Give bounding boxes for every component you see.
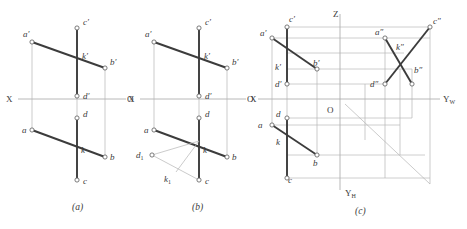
- panel-a-label-a-prime: a′: [23, 29, 31, 39]
- panel-c-label-c: c: [288, 175, 292, 185]
- panel-a-label-a: a: [22, 125, 27, 135]
- panel-b-point-a: [152, 128, 156, 132]
- caption-a: (a): [72, 202, 83, 212]
- panel-c-point-d-dbl-prime: [383, 82, 387, 86]
- panel-c-label-a: a: [258, 120, 263, 130]
- figure-canvas: a′ b′ c′ d′ k′ a b c d k X O a′ b: [0, 0, 467, 229]
- panel-c-label-z: Z: [333, 9, 339, 19]
- panel-c-point-c-prime: [285, 25, 289, 29]
- panel-c-label-k-dbl-prime: k″: [396, 42, 404, 52]
- panel-b-label-d: d: [205, 109, 210, 119]
- panel-c-label-d: d: [276, 109, 281, 119]
- panel-a-label-b-prime: b′: [110, 57, 118, 67]
- panel-b-label-d1: d1: [136, 150, 144, 161]
- panel-c-label-x: X: [250, 94, 257, 104]
- panel-c-label-o: O: [327, 105, 334, 115]
- projection-figure: a′ b′ c′ d′ k′ a b c d k X O a′ b: [0, 0, 467, 229]
- panel-b-point-c: [197, 178, 201, 182]
- panel-c-point-b: [315, 153, 319, 157]
- panel-a-label-c-prime: c′: [83, 17, 90, 27]
- panel-c-point-b-dbl-prime: [410, 82, 414, 86]
- panel-b-point-d1: [150, 153, 154, 157]
- panel-c-point-a: [270, 123, 274, 127]
- panel-b-label-k1: k1: [164, 174, 171, 185]
- panel-b-label-a-prime: a′: [145, 29, 153, 39]
- panel-a-line-ab: [32, 130, 105, 157]
- panel-a-label-k-prime: k′: [82, 51, 89, 61]
- panel-c-bisector: [345, 104, 430, 184]
- panel-c-label-d-prime: d′: [275, 79, 283, 89]
- panel-a-label-x: X: [6, 94, 13, 104]
- panel-b-label-x: X: [128, 94, 135, 104]
- panel-b-label-c: c: [205, 176, 209, 186]
- panel-b: a′ b′ c′ d′ k′ a b c d k d1 k1 X O: [128, 17, 254, 186]
- panel-a-label-c: c: [83, 176, 87, 186]
- panel-c-point-d: [285, 116, 289, 120]
- panel-c-label-c-prime: c′: [289, 14, 296, 24]
- panel-a: a′ b′ c′ d′ k′ a b c d k X O: [6, 17, 134, 186]
- panel-a-point-b-prime: [103, 66, 107, 70]
- panel-b-point-d: [197, 116, 201, 120]
- panel-c-point-a-prime: [270, 36, 274, 40]
- panel-a-label-d: d: [83, 109, 88, 119]
- panel-a-label-d-prime: d′: [83, 91, 91, 101]
- panel-c-label-b: b: [313, 158, 318, 168]
- caption-c: (c): [355, 206, 366, 216]
- panel-b-label-b: b: [232, 152, 237, 162]
- panel-a-line-ab-prime: [32, 42, 105, 68]
- panel-c-point-c-dbl-prime: [428, 25, 432, 29]
- panel-b-point-a-prime: [152, 40, 156, 44]
- panel-b-label-c-prime: c′: [205, 17, 212, 27]
- panel-c-label-k: k: [276, 137, 281, 147]
- panel-b-point-b-prime: [225, 66, 229, 70]
- panel-c-label-a-dbl-prime: a″: [375, 27, 384, 37]
- panel-b-aux-k1-riser: [176, 141, 199, 172]
- panel-c-label-c-dbl-prime: c″: [433, 16, 441, 26]
- panel-a-point-b: [103, 155, 107, 159]
- panel-b-line-ab-prime: [154, 42, 227, 68]
- panel-a-point-a-prime: [30, 40, 34, 44]
- panel-b-label-k-prime: k′: [204, 51, 211, 61]
- panel-a-point-a: [30, 128, 34, 132]
- panel-b-aux-d1-to-c: [152, 155, 199, 180]
- panel-c-point-a-dbl-prime: [383, 36, 387, 40]
- panel-a-label-b: b: [110, 152, 115, 162]
- panel-b-aux-d1-to-k: [152, 141, 199, 155]
- panel-a-point-c-prime: [75, 26, 79, 30]
- panel-a-point-c: [75, 178, 79, 182]
- panel-a-point-d: [75, 116, 79, 120]
- panel-b-point-c-prime: [197, 26, 201, 30]
- panel-c-label-b-dbl-prime: b″: [414, 65, 423, 75]
- panel-b-point-d-prime: [197, 94, 201, 98]
- panel-b-label-d-prime: d′: [205, 91, 213, 101]
- panel-b-label-b-prime: b′: [232, 57, 240, 67]
- panel-c: a′ b′ c′ d′ k′ a b c d k a″ b″ c″ d″ k″ …: [250, 9, 456, 199]
- panel-a-point-d-prime: [75, 94, 79, 98]
- panel-c-label-k-prime: k′: [275, 62, 282, 72]
- panel-c-label-d-dbl-prime: d″: [370, 79, 379, 89]
- panel-c-label-yh: YH: [345, 188, 357, 199]
- panel-b-point-b: [225, 155, 229, 159]
- panel-b-label-a: a: [144, 125, 149, 135]
- panel-c-label-yw: YW: [443, 94, 456, 105]
- panel-c-label-b-prime: b′: [313, 58, 321, 68]
- panel-c-point-d-prime: [285, 82, 289, 86]
- panel-c-label-a-prime: a′: [260, 28, 268, 38]
- caption-b: (b): [192, 202, 203, 212]
